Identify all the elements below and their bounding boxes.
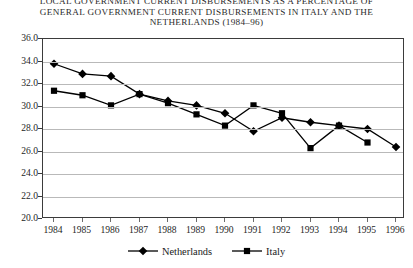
data-point-italy bbox=[307, 145, 313, 151]
chart-title-line-3: NETHERLANDS (1984–96) bbox=[0, 17, 413, 28]
x-tick-mark bbox=[53, 218, 54, 222]
y-tick-label: 36.0 bbox=[4, 33, 38, 43]
data-point-italy bbox=[79, 92, 85, 98]
chart-title-line-1: LOCAL GOVERNMENT CURRENT DISBURSEMENTS A… bbox=[0, 0, 413, 7]
chart-title-line-2: GENERAL GOVERNMENT CURRENT DISBURSEMENTS… bbox=[0, 7, 413, 18]
data-point-italy bbox=[51, 88, 57, 94]
data-point-netherlands bbox=[306, 118, 315, 127]
y-tick-label: 20.0 bbox=[4, 213, 38, 223]
gridline bbox=[43, 84, 403, 85]
data-point-netherlands bbox=[221, 109, 230, 118]
gridline bbox=[43, 62, 403, 63]
data-point-italy bbox=[193, 111, 199, 117]
data-point-netherlands bbox=[392, 143, 401, 152]
x-tick-mark bbox=[253, 218, 254, 222]
x-tick-mark bbox=[310, 218, 311, 222]
x-tick-mark bbox=[196, 218, 197, 222]
data-point-italy bbox=[136, 91, 142, 97]
y-tick-label: 24.0 bbox=[4, 168, 38, 178]
data-point-netherlands bbox=[78, 70, 87, 79]
gridline bbox=[43, 174, 403, 175]
x-tick-mark bbox=[82, 218, 83, 222]
y-axis: 36.034.032.030.028.026.024.022.020.0 bbox=[0, 38, 38, 218]
x-tick-mark bbox=[395, 218, 396, 222]
data-point-italy bbox=[279, 110, 285, 116]
y-tick-label: 32.0 bbox=[4, 78, 38, 88]
plot-area bbox=[42, 38, 404, 218]
x-tick-label: 1996 bbox=[375, 225, 413, 235]
x-axis: 1984198519861987198819891990199119921993… bbox=[42, 218, 404, 242]
y-tick-label: 34.0 bbox=[4, 56, 38, 66]
x-tick-mark bbox=[110, 218, 111, 222]
x-tick-mark bbox=[281, 218, 282, 222]
data-point-italy bbox=[222, 123, 228, 129]
gridline bbox=[43, 107, 403, 108]
data-point-italy bbox=[165, 100, 171, 106]
legend-label: Italy bbox=[266, 246, 285, 257]
legend-label: Netherlands bbox=[162, 246, 212, 257]
gridline bbox=[43, 152, 403, 153]
y-tick-label: 30.0 bbox=[4, 101, 38, 111]
series-line-netherlands bbox=[54, 64, 396, 147]
gridline bbox=[43, 197, 403, 198]
x-tick-mark bbox=[139, 218, 140, 222]
chart-legend: NetherlandsItaly bbox=[0, 245, 413, 257]
data-point-italy bbox=[250, 102, 256, 108]
data-point-netherlands bbox=[192, 101, 201, 110]
data-point-italy bbox=[336, 123, 342, 129]
x-tick-mark bbox=[338, 218, 339, 222]
data-point-italy bbox=[108, 102, 114, 108]
y-tick-label: 28.0 bbox=[4, 123, 38, 133]
data-point-netherlands bbox=[107, 72, 116, 81]
legend-entry-italy[interactable]: Italy bbox=[232, 245, 285, 257]
chart-title: LOCAL GOVERNMENT CURRENT DISBURSEMENTS A… bbox=[0, 0, 413, 28]
x-tick-mark bbox=[367, 218, 368, 222]
series-line-italy bbox=[54, 91, 368, 148]
diamond-marker-icon bbox=[128, 245, 158, 257]
x-tick-mark bbox=[167, 218, 168, 222]
square-marker-icon bbox=[232, 245, 262, 257]
data-point-italy bbox=[364, 139, 370, 145]
x-tick-mark bbox=[224, 218, 225, 222]
y-tick-label: 26.0 bbox=[4, 146, 38, 156]
gridline bbox=[43, 129, 403, 130]
legend-entry-netherlands[interactable]: Netherlands bbox=[128, 245, 212, 257]
y-tick-label: 22.0 bbox=[4, 191, 38, 201]
